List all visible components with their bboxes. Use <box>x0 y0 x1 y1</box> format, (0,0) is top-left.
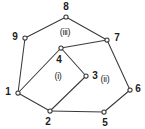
graph-edge-5-6 <box>104 90 130 112</box>
vertex-label-8: 8 <box>63 2 68 12</box>
graph-edge-7-8 <box>66 17 107 40</box>
vertex-label-1: 1 <box>5 87 10 97</box>
graph-vertex-8 <box>64 15 68 19</box>
region-label-ii: (ii) <box>101 75 110 84</box>
graph-canvas <box>0 0 145 129</box>
graph-vertex-2 <box>48 109 52 113</box>
planar-graph-figure: 123456789 (i)(ii)(iii) <box>0 0 145 129</box>
vertex-label-2: 2 <box>45 117 50 127</box>
graph-edge-6-7 <box>107 40 130 90</box>
graph-vertex-7 <box>105 38 109 42</box>
graph-edge-7-4 <box>61 40 107 48</box>
edges-group <box>18 17 130 112</box>
vertex-label-9: 9 <box>12 32 17 42</box>
graph-edge-1-2 <box>18 93 50 111</box>
vertex-label-6: 6 <box>135 84 140 94</box>
graph-vertex-4 <box>59 46 63 50</box>
graph-vertex-6 <box>128 88 132 92</box>
graph-edge-2-3 <box>50 76 86 111</box>
graph-vertex-5 <box>102 110 106 114</box>
vertex-label-7: 7 <box>114 33 119 43</box>
vertex-label-5: 5 <box>102 118 107 128</box>
vertices-group <box>16 15 132 114</box>
graph-vertex-3 <box>84 74 88 78</box>
region-label-iii: (iii) <box>60 28 71 37</box>
graph-edge-3-4 <box>61 48 86 76</box>
region-label-i: (i) <box>54 72 61 81</box>
graph-edge-9-1 <box>18 38 25 93</box>
graph-vertex-1 <box>16 91 20 95</box>
vertex-label-4: 4 <box>56 55 61 65</box>
vertex-label-3: 3 <box>92 71 97 81</box>
graph-edge-2-5 <box>50 111 104 112</box>
graph-vertex-9 <box>23 36 27 40</box>
